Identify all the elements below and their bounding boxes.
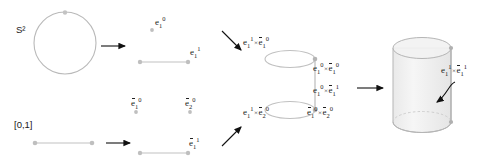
cell-dim: 0: [314, 105, 317, 112]
cell-index: 1: [135, 103, 138, 110]
cell-dim: 0: [336, 61, 339, 68]
cell-letter: e: [322, 108, 326, 117]
label-product-e1-0-x-ebar1-1: e10×e11: [313, 86, 339, 95]
cell-index: 1: [332, 68, 335, 75]
cell-letter: e: [456, 66, 460, 75]
cell-dim: 1: [336, 83, 339, 90]
cell-index: 1: [194, 52, 197, 59]
figure-vector-layer: [0, 0, 485, 168]
cell-dim: 1: [448, 63, 451, 70]
cell-index: 1: [247, 112, 250, 119]
cell-dim: 1: [464, 63, 467, 70]
arrow-product-lower: [222, 127, 241, 146]
cell-letter: e: [328, 86, 332, 95]
cell-dim: 1: [197, 45, 200, 52]
cell-index: 1: [159, 22, 162, 29]
cell-dim: 0: [320, 83, 323, 90]
cell-index: 1: [317, 68, 320, 75]
cell-dim: 1: [196, 136, 199, 143]
cell-dim: 0: [192, 96, 195, 103]
cell-dim: 0: [162, 15, 165, 22]
label-sphere-domain: S²: [16, 25, 26, 35]
cell-dim: 1: [250, 35, 253, 42]
cw-complex-top-glyph: [138, 28, 190, 64]
cell-dim: 0: [266, 35, 269, 42]
cylinder-glyph: [393, 38, 455, 133]
arrow-product-upper: [222, 31, 241, 50]
figure-canvas: S² [0,1] e10 e11 e10 e20 e11 e11×e10 e10…: [0, 0, 485, 168]
label-product-e1-0-x-ebar1-0: e10×e10: [313, 64, 339, 73]
cell-index: 1: [460, 70, 463, 77]
cell-letter: e: [258, 108, 262, 117]
label-cell-ebar2-0: e20: [185, 99, 196, 108]
cell-index: 1: [445, 70, 448, 77]
cell-letter: e: [131, 99, 135, 108]
cell-index: 2: [189, 103, 192, 110]
interval-segment-glyph: [33, 141, 95, 146]
cell-dim: 0: [320, 61, 323, 68]
cell-dim: 0: [330, 105, 333, 112]
cell-index: 1: [262, 42, 265, 49]
label-product-e1-1-x-ebar2-0: e11×e20: [243, 108, 269, 117]
label-interval-domain: [0,1]: [14, 120, 33, 130]
label-product-e1-1-x-ebar1-0: e11×e10: [243, 38, 269, 47]
cell-index: 1: [311, 112, 314, 119]
cell-dim: 0: [138, 96, 141, 103]
label-cell-ebar1-1: e11: [189, 139, 200, 148]
cw-complex-bottom-glyph: [134, 110, 192, 155]
cell-index: 1: [247, 42, 250, 49]
sphere-circle-glyph: [34, 10, 96, 74]
cell-letter: e: [258, 38, 262, 47]
cell-letter: e: [328, 64, 332, 73]
label-cell-ebar1-0: e10: [131, 99, 142, 108]
cell-index: 2: [262, 112, 265, 119]
label-cell-e1-1: e11: [190, 48, 201, 57]
cell-index: 1: [332, 90, 335, 97]
cell-letter: e: [307, 108, 311, 117]
cell-dim: 0: [266, 105, 269, 112]
label-product-ebar1-0-x-ebar2-0: e10×e20: [307, 108, 333, 117]
cell-index: 1: [193, 143, 196, 150]
cell-letter: e: [189, 139, 193, 148]
label-cell-e1-0: e10: [155, 18, 166, 27]
label-result-e1-1-x-ebar1-1: e11×e11: [441, 66, 467, 75]
cell-index: 1: [317, 90, 320, 97]
cell-index: 2: [326, 112, 329, 119]
cell-letter: e: [185, 99, 189, 108]
cell-dim: 1: [250, 105, 253, 112]
